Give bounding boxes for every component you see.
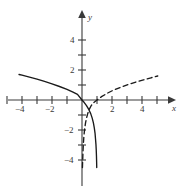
xtick-label-2: 2 (110, 105, 115, 114)
axes-group (8, 10, 176, 186)
xtick-label-neg2: −2 (45, 105, 55, 114)
curve-solid-curve (19, 75, 97, 168)
coordinate-plane (0, 0, 183, 193)
ytick-label-4: 4 (70, 36, 75, 45)
xtick-label-neg4: −4 (15, 105, 25, 114)
graph-figure: −4 −2 2 4 4 2 −2 −4 x y (0, 0, 183, 193)
xtick-label-4: 4 (140, 105, 145, 114)
x-axis-label: x (172, 104, 176, 113)
ytick-label-neg4: −4 (64, 156, 74, 165)
y-axis-label: y (88, 13, 92, 22)
ytick-label-2: 2 (70, 66, 75, 75)
curves (19, 75, 158, 168)
ytick-label-neg2: −2 (64, 126, 74, 135)
y-axis-arrow-icon (78, 10, 86, 18)
